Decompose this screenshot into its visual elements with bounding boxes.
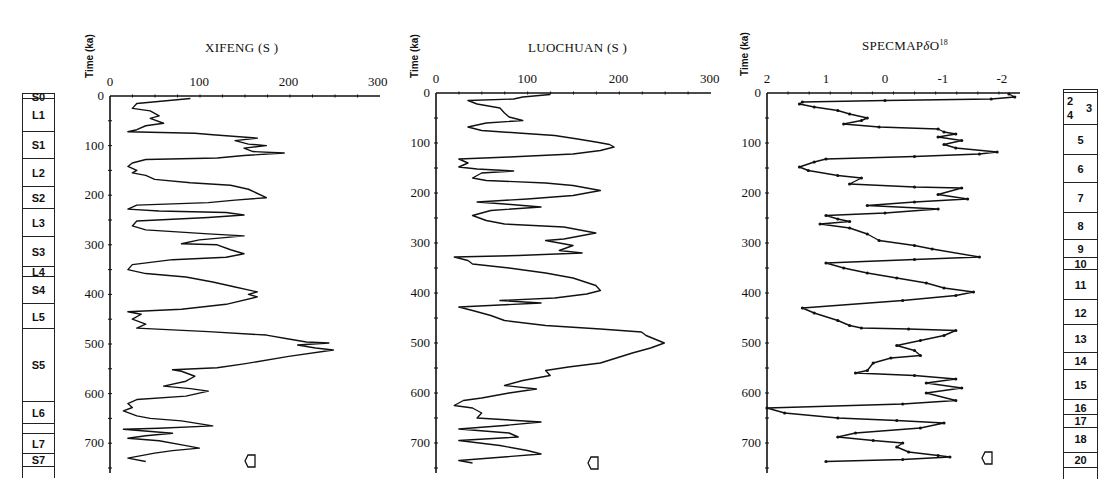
data-point — [824, 157, 827, 160]
data-point — [807, 169, 810, 172]
data-point — [901, 441, 904, 444]
hexagon-marker-icon — [982, 452, 992, 464]
data-point — [942, 421, 945, 424]
data-point — [942, 286, 945, 289]
plot-canvas — [0, 0, 1115, 497]
data-point — [913, 374, 916, 377]
data-point — [919, 339, 922, 342]
data-point — [901, 402, 904, 405]
data-point — [798, 102, 801, 105]
data-point — [960, 186, 963, 189]
data-point — [937, 207, 940, 210]
hexagon-marker-icon — [245, 455, 255, 467]
data-point — [978, 255, 981, 258]
data-point — [925, 391, 928, 394]
data-point — [913, 185, 916, 188]
data-point — [907, 327, 910, 330]
data-point — [848, 220, 851, 223]
data-point — [925, 381, 928, 384]
data-point — [954, 146, 957, 149]
data-point — [954, 294, 957, 297]
data-point — [872, 361, 875, 364]
chart-panel-2 — [765, 92, 1020, 474]
data-point — [860, 326, 863, 329]
data-point — [913, 155, 916, 158]
data-point — [942, 130, 945, 133]
data-point — [866, 271, 869, 274]
data-point — [895, 344, 898, 347]
data-point — [872, 439, 875, 442]
data-point — [848, 324, 851, 327]
data-point — [960, 139, 963, 142]
hexagon-marker-icon — [588, 457, 598, 469]
data-line — [767, 94, 1015, 462]
data-point — [990, 97, 993, 100]
data-point — [836, 416, 839, 419]
data-point — [848, 182, 851, 185]
data-point — [878, 125, 881, 128]
data-point — [783, 411, 786, 414]
data-point — [836, 109, 839, 112]
data-point — [978, 152, 981, 155]
data-point — [948, 455, 951, 458]
data-point — [798, 165, 801, 168]
data-point — [813, 160, 816, 163]
data-point — [801, 306, 804, 309]
data-point — [883, 211, 886, 214]
data-point — [860, 176, 863, 179]
data-point — [854, 371, 857, 374]
chart-panel-0 — [108, 95, 380, 473]
data-point — [842, 266, 845, 269]
chart-panel-1 — [434, 92, 711, 474]
data-point — [925, 281, 928, 284]
data-point — [942, 143, 945, 146]
data-point — [919, 426, 922, 429]
data-point — [937, 454, 940, 457]
data-point — [801, 100, 804, 103]
data-point — [878, 239, 881, 242]
data-point — [842, 122, 845, 125]
data-point — [913, 200, 916, 203]
data-point — [824, 261, 827, 264]
data-point — [854, 431, 857, 434]
data-point — [848, 226, 851, 229]
data-point — [954, 399, 957, 402]
data-line — [454, 95, 664, 464]
data-point — [942, 334, 945, 337]
data-point — [836, 435, 839, 438]
data-point — [913, 244, 916, 247]
data-point — [937, 135, 940, 138]
data-point — [913, 258, 916, 261]
data-point — [996, 150, 999, 153]
data-point — [954, 377, 957, 380]
data-point — [895, 445, 898, 448]
data-point — [913, 349, 916, 352]
data-point — [966, 197, 969, 200]
data-point — [972, 290, 975, 293]
data-point — [889, 356, 892, 359]
data-point — [860, 119, 863, 122]
data-point — [813, 311, 816, 314]
data-point — [819, 222, 822, 225]
data-point — [907, 450, 910, 453]
data-point — [824, 460, 827, 463]
data-point — [960, 386, 963, 389]
data-point — [895, 276, 898, 279]
data-point — [1013, 95, 1016, 98]
data-point — [883, 99, 886, 102]
data-point — [937, 193, 940, 196]
data-point — [919, 354, 922, 357]
data-point — [848, 112, 851, 115]
data-point — [895, 419, 898, 422]
data-point — [901, 299, 904, 302]
data-point — [765, 406, 768, 409]
data-point — [836, 319, 839, 322]
data-point — [931, 247, 934, 250]
data-point — [954, 132, 957, 135]
data-point — [824, 214, 827, 217]
data-point — [836, 217, 839, 220]
data-point — [836, 174, 839, 177]
data-line — [123, 98, 333, 461]
data-point — [937, 127, 940, 130]
data-point — [866, 116, 869, 119]
